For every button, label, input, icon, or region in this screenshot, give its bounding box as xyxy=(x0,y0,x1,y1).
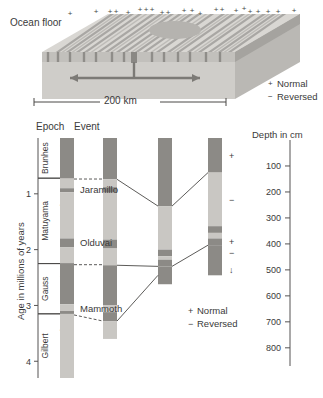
polarity-plus-mark: + xyxy=(198,9,203,18)
polarity-band-reversed xyxy=(60,178,74,188)
block-legend-normal-label: Normal xyxy=(277,79,308,89)
depth-axis-tick-label: 600 xyxy=(266,291,281,301)
polarity-plus-mark: + xyxy=(214,5,219,14)
depth-axis-tick-label: 800 xyxy=(266,343,281,353)
depth-axis-title: Depth in cm xyxy=(252,130,303,140)
polarity-band-reversed xyxy=(103,249,117,266)
axis-y-title: Age in millions of years xyxy=(16,222,26,320)
polarity-band-normal xyxy=(158,250,172,257)
event-label: Jaramillo xyxy=(80,184,118,195)
correlation-line xyxy=(172,245,208,266)
correlation-line xyxy=(117,179,158,206)
block-legend-reversed-label: Reversed xyxy=(277,92,318,102)
polarity-band-reversed xyxy=(60,247,74,263)
polarity-band-normal xyxy=(60,264,74,305)
polarity-plus-mark: + xyxy=(220,5,225,14)
polarity-plus-mark: + xyxy=(190,6,195,15)
depth-axis-tick-label: 700 xyxy=(266,317,281,327)
depth-axis-tick-label: 500 xyxy=(266,265,281,275)
polarity-band-normal xyxy=(60,238,74,247)
polarity-plus-mark: + xyxy=(256,7,261,16)
polarity-band-normal xyxy=(158,266,172,284)
polarity-band-reversed xyxy=(158,206,172,250)
polarity-plus-mark: + xyxy=(248,7,253,16)
core-polarity-annotation: + xyxy=(229,237,234,247)
polarity-band-reversed xyxy=(158,256,172,259)
depth-axis-tick-label: 100 xyxy=(266,161,281,171)
age-axis-tick-label: 1 xyxy=(26,189,31,199)
depth-axis-tick-label: 200 xyxy=(266,187,281,197)
polarity-plus-mark: + xyxy=(234,6,239,15)
polarity-band-normal xyxy=(158,260,172,267)
column-header-epoch: Epoch xyxy=(36,122,64,132)
polarity-band-normal xyxy=(103,138,117,179)
epoch-name: Gauss xyxy=(40,276,50,301)
polarity-plus-mark: + xyxy=(276,7,281,16)
polarity-plus-mark: + xyxy=(150,5,155,14)
correlation-line xyxy=(117,275,158,321)
polarity-band-normal xyxy=(60,188,74,192)
event-label: Mammoth xyxy=(80,303,122,314)
polarity-band-reversed xyxy=(60,314,74,378)
correlation-line xyxy=(117,265,158,266)
polarity-plus-mark: + xyxy=(126,8,131,17)
epoch-name: Gilbert xyxy=(40,333,50,359)
polarity-band-reversed xyxy=(103,193,117,240)
scale-bar-label: 200 km xyxy=(104,96,137,106)
ocean-floor-label: Ocean floor xyxy=(10,18,62,28)
chart-legend-reversed-label: Reversed xyxy=(197,319,238,329)
polarity-band-normal xyxy=(208,226,222,233)
polarity-band-reversed xyxy=(60,192,74,238)
age-axis-tick-label: 4 xyxy=(26,357,31,367)
core-polarity-annotation: ↓ xyxy=(229,265,234,275)
polarity-plus-mark: + xyxy=(68,9,73,18)
polarity-band-normal xyxy=(158,138,172,206)
chart-legend-reversed-symbol: − xyxy=(188,320,193,329)
polarity-plus-mark: + xyxy=(144,5,149,14)
polarity-band-normal xyxy=(60,311,74,314)
polarity-plus-mark: + xyxy=(94,7,99,16)
polarity-plus-mark: + xyxy=(292,6,297,15)
polarity-plus-mark: + xyxy=(242,4,247,13)
epoch-name: Brunhes xyxy=(40,142,50,174)
polarity-plus-mark: + xyxy=(114,7,119,16)
polarity-plus-mark: + xyxy=(166,8,171,17)
age-axis-tick-label: 2 xyxy=(26,245,31,255)
polarity-plus-mark: + xyxy=(182,6,187,15)
correlation-line xyxy=(74,315,103,321)
polarity-band-normal xyxy=(60,138,74,178)
polarity-band-reversed xyxy=(208,173,222,227)
chart-legend-normal-label: Normal xyxy=(197,306,228,316)
polarity-band-normal xyxy=(208,238,222,245)
block-legend-normal-symbol: + xyxy=(268,80,273,88)
depth-axis-tick-label: 300 xyxy=(266,213,281,223)
polarity-plus-mark: + xyxy=(266,7,271,16)
core-polarity-annotation: − xyxy=(229,195,234,205)
epoch-name: Matuyama xyxy=(40,201,50,241)
polarity-band-normal xyxy=(208,138,222,173)
chart-legend-normal-symbol: + xyxy=(188,307,193,316)
core-polarity-annotation: + xyxy=(229,151,234,161)
block-front-face xyxy=(42,62,235,99)
polarity-plus-mark: + xyxy=(138,5,143,14)
depth-axis-tick-label: 400 xyxy=(266,239,281,249)
block-legend-reversed-symbol: − xyxy=(268,93,273,101)
polarity-band-reversed xyxy=(60,304,74,311)
magnetostratigraphy-chart: 1234BrunhesnormalMatuyamareversedGaussno… xyxy=(0,118,323,398)
polarity-band-reversed xyxy=(103,321,117,339)
ridge-notch xyxy=(131,52,137,63)
polarity-band-normal xyxy=(208,245,222,275)
polarity-band-reversed xyxy=(208,233,222,239)
polarity-plus-mark: + xyxy=(160,8,165,17)
column-header-event: Event xyxy=(74,122,100,132)
polarity-plus-mark: + xyxy=(108,7,113,16)
core-polarity-annotation: − xyxy=(229,248,234,258)
polarity-band-normal xyxy=(103,265,117,305)
age-axis-tick-label: 3 xyxy=(26,301,31,311)
event-label: Olduvai xyxy=(80,237,112,248)
figure-root: ++++++++++++++++++++++ Ocean floor 200 k… xyxy=(0,0,323,398)
correlation-line xyxy=(172,173,208,206)
